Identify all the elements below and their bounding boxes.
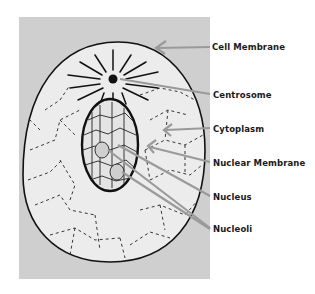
label-nucleoli: Nucleoli bbox=[213, 224, 252, 234]
label-nuclear-membrane: Nuclear Membrane bbox=[213, 158, 305, 168]
label-cytoplasm: Cytoplasm bbox=[213, 124, 264, 134]
nucleolus-2 bbox=[110, 164, 124, 180]
nucleolus-1 bbox=[95, 142, 109, 158]
label-centrosome: Centrosome bbox=[213, 90, 272, 100]
centrosome-dot bbox=[109, 75, 118, 84]
label-nucleus: Nucleus bbox=[213, 192, 252, 202]
label-cell-membrane: Cell Membrane bbox=[212, 42, 285, 52]
